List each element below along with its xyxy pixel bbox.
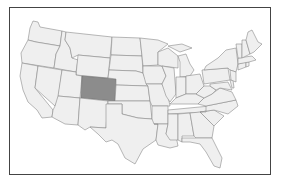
state-new-mexico[interactable]: [78, 98, 108, 130]
state-montana[interactable]: [65, 32, 112, 58]
state-kansas[interactable]: [115, 85, 150, 101]
state-iowa[interactable]: [143, 66, 166, 84]
state-new-jersey[interactable]: [230, 70, 236, 82]
us-map: [0, 0, 285, 185]
state-mississippi[interactable]: [166, 114, 178, 140]
state-wyoming[interactable]: [76, 55, 110, 78]
state-arkansas[interactable]: [152, 106, 168, 124]
state-colorado[interactable]: [81, 76, 116, 101]
state-north-dakota[interactable]: [111, 37, 142, 56]
state-florida[interactable]: [182, 138, 222, 168]
state-pennsylvania[interactable]: [202, 68, 230, 84]
state-new-york[interactable]: [204, 48, 238, 72]
state-wisconsin[interactable]: [158, 48, 178, 68]
